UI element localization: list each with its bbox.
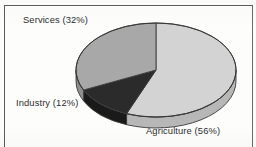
pie-label-agriculture: Agriculture (56%) [146,125,220,136]
pie-chart: Services (32%) Industry (12%) Agricultur… [0,0,256,147]
pie-label-industry: Industry (12%) [16,97,78,108]
chart-page: Services (32%) Industry (12%) Agricultur… [0,0,256,147]
pie-label-services: Services (32%) [23,14,88,25]
